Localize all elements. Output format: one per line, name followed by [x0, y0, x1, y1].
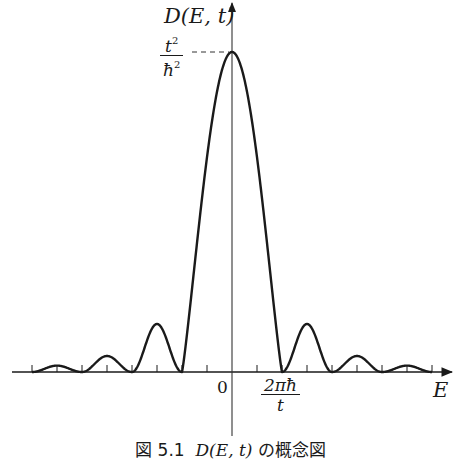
peak-denominator-exp: 2 — [174, 59, 180, 70]
caption-suffix: の概念図 — [258, 440, 326, 460]
first-zero-label: 2πħ t — [261, 376, 300, 415]
figure-caption: 図 5.1 D(E, t) の概念図 — [0, 436, 461, 461]
peak-denominator: ħ — [163, 60, 174, 80]
peak-numerator-exp: 2 — [172, 35, 178, 46]
origin-label: 0 — [217, 377, 228, 397]
caption-math: D(E, t) — [195, 440, 252, 460]
x-axis-label: E — [433, 378, 448, 402]
peak-numerator: t — [165, 36, 172, 56]
zero-numerator: 2πħ — [261, 376, 300, 394]
peak-value-label: t2 ħ2 — [160, 33, 183, 80]
zero-denominator: t — [274, 395, 287, 415]
y-axis-label: D(E, t) — [164, 4, 234, 28]
caption-prefix: 図 5.1 — [135, 440, 184, 460]
